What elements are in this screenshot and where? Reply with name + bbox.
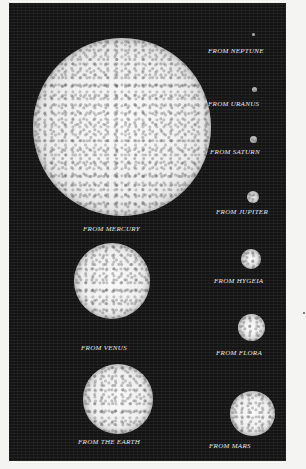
label-from-mars: From Mars — [209, 442, 251, 450]
sun-from-mars — [230, 391, 275, 436]
label-from-jupiter: From Jupiter — [216, 208, 268, 216]
sun-from-neptune — [252, 33, 255, 36]
label-from-hygeia: From Hygeia — [214, 277, 263, 285]
sun-from-venus — [74, 243, 150, 319]
label-from-mercury: From Mercury — [83, 225, 140, 233]
sun-from-uranus — [252, 87, 257, 92]
sun-from-hygeia — [241, 249, 261, 269]
label-from-flora: From Flora — [216, 349, 262, 357]
label-from-saturn: From Saturn — [210, 148, 260, 156]
label-from-earth: From the Earth — [78, 438, 140, 446]
label-from-venus: From Venus — [81, 344, 127, 352]
paper-speck — [303, 312, 305, 314]
sun-from-mercury — [33, 38, 211, 216]
sun-from-jupiter — [247, 191, 259, 203]
sun-from-flora — [238, 314, 265, 341]
sun-from-earth — [83, 364, 153, 434]
label-from-uranus: From Uranus — [208, 100, 259, 108]
label-from-neptune: From Neptune — [208, 47, 264, 55]
sun-from-saturn — [250, 136, 257, 143]
engraving-plate: From Mercury From Neptune From Uranus Fr… — [9, 3, 286, 461]
